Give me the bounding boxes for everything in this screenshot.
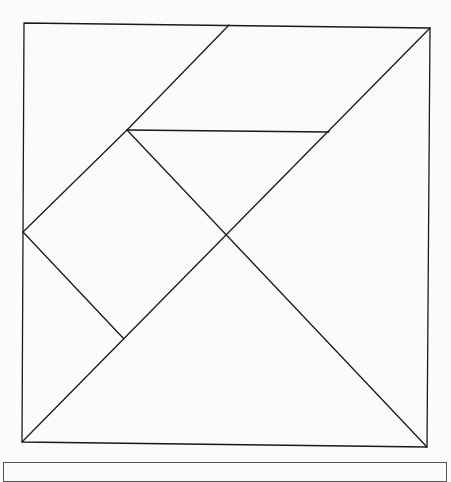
bottom-panel-frame bbox=[3, 462, 447, 482]
center-to-bottom-right bbox=[127, 130, 427, 447]
parallelogram-left-edge bbox=[127, 25, 229, 130]
mid-horizontal bbox=[127, 130, 329, 132]
square-lower-left-edge bbox=[23, 232, 124, 339]
square-upper-left-edge bbox=[23, 130, 127, 232]
